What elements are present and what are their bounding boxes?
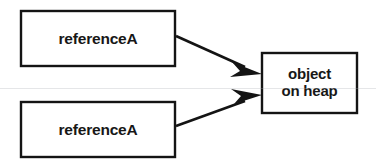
edge-bottom-line [176, 101, 245, 126]
node-label-reference-a-bottom: referenceA [21, 102, 175, 157]
edge-top-line [176, 36, 245, 67]
node-label-object-on-heap: object on heap [262, 53, 357, 113]
scan-line-artifact [0, 88, 376, 89]
edge-top-arrowhead-icon [230, 62, 262, 77]
edge-bottom-arrowhead-icon [231, 89, 262, 104]
diagram-canvas: referenceA referenceA object on heap [0, 0, 376, 165]
node-label-reference-a-top: referenceA [21, 11, 175, 66]
